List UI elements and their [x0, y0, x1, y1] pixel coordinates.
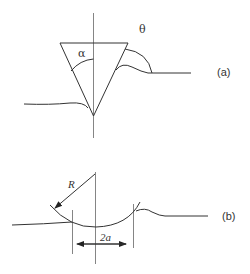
panel-label-a: (a) — [217, 66, 230, 78]
alpha-label: α — [78, 47, 86, 60]
surface-right-a — [116, 65, 191, 73]
surface-left-a — [24, 103, 88, 108]
surface-left-b — [12, 222, 72, 225]
figure-a: α θ (a) — [24, 13, 230, 138]
theta-arc — [125, 49, 152, 73]
surface-right-b — [136, 209, 208, 216]
panel-label-b: (b) — [222, 210, 235, 222]
theta-label: θ — [139, 23, 146, 36]
contact-label: 2a — [100, 231, 112, 243]
spherical-indenter — [50, 202, 140, 227]
indentation-diagram: α θ (a) R 2a (b) — [0, 0, 250, 274]
radius-arrow — [55, 174, 95, 208]
alpha-arc — [71, 59, 94, 71]
figure-b: R 2a (b) — [12, 172, 235, 264]
radius-label: R — [67, 178, 75, 190]
conical-indenter — [60, 43, 128, 116]
